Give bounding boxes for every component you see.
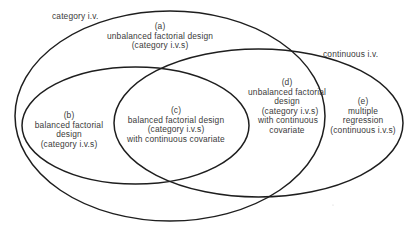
region-c-line-2: (category i.v.s) bbox=[148, 124, 205, 134]
region-d-line-2: design bbox=[274, 96, 300, 106]
region-a-id: (a) bbox=[155, 21, 166, 31]
region-d-line-3: (category i.v.s) bbox=[262, 106, 319, 116]
region-b-line-3: (category i.v.s) bbox=[41, 139, 98, 149]
scan-speck bbox=[332, 204, 333, 205]
region-c-id: (c) bbox=[171, 105, 181, 115]
category-iv-label: category i.v. bbox=[52, 11, 98, 21]
region-b-line-2: design bbox=[56, 129, 82, 139]
region-b-label: (b) balanced factorial design (category … bbox=[35, 110, 103, 149]
region-c-line-1: balanced factorial design bbox=[128, 115, 225, 125]
region-d-label: (d) unbalanced factorial design (categor… bbox=[248, 77, 326, 135]
region-b-id: (b) bbox=[64, 110, 75, 120]
venn-diagram: category i.v. continuous i.v. (a) unbala… bbox=[0, 0, 415, 231]
region-a-label: (a) unbalanced factorial design (categor… bbox=[107, 21, 213, 50]
region-d-id: (d) bbox=[282, 77, 293, 87]
region-d-line-5: covariate bbox=[269, 125, 305, 135]
region-e-label: (e) multiple regression (continuous i.v.… bbox=[330, 96, 395, 135]
continuous-iv-label: continuous i.v. bbox=[323, 49, 378, 59]
region-a-line-1: unbalanced factorial design bbox=[107, 31, 213, 41]
region-d-line-4: with continuous bbox=[257, 115, 318, 125]
region-c-line-3: with continuous covariate bbox=[126, 134, 225, 144]
region-e-id: (e) bbox=[358, 96, 369, 106]
region-d-line-1: unbalanced factorial bbox=[248, 87, 326, 97]
region-a-line-2: (category i.v.s) bbox=[132, 40, 189, 50]
region-c-label: (c) balanced factorial design (category … bbox=[126, 105, 225, 144]
region-e-line-2: regression bbox=[343, 115, 384, 125]
region-e-line-1: multiple bbox=[348, 106, 378, 116]
region-b-line-1: balanced factorial bbox=[35, 120, 103, 130]
region-e-line-3: (continuous i.v.s) bbox=[330, 125, 395, 135]
